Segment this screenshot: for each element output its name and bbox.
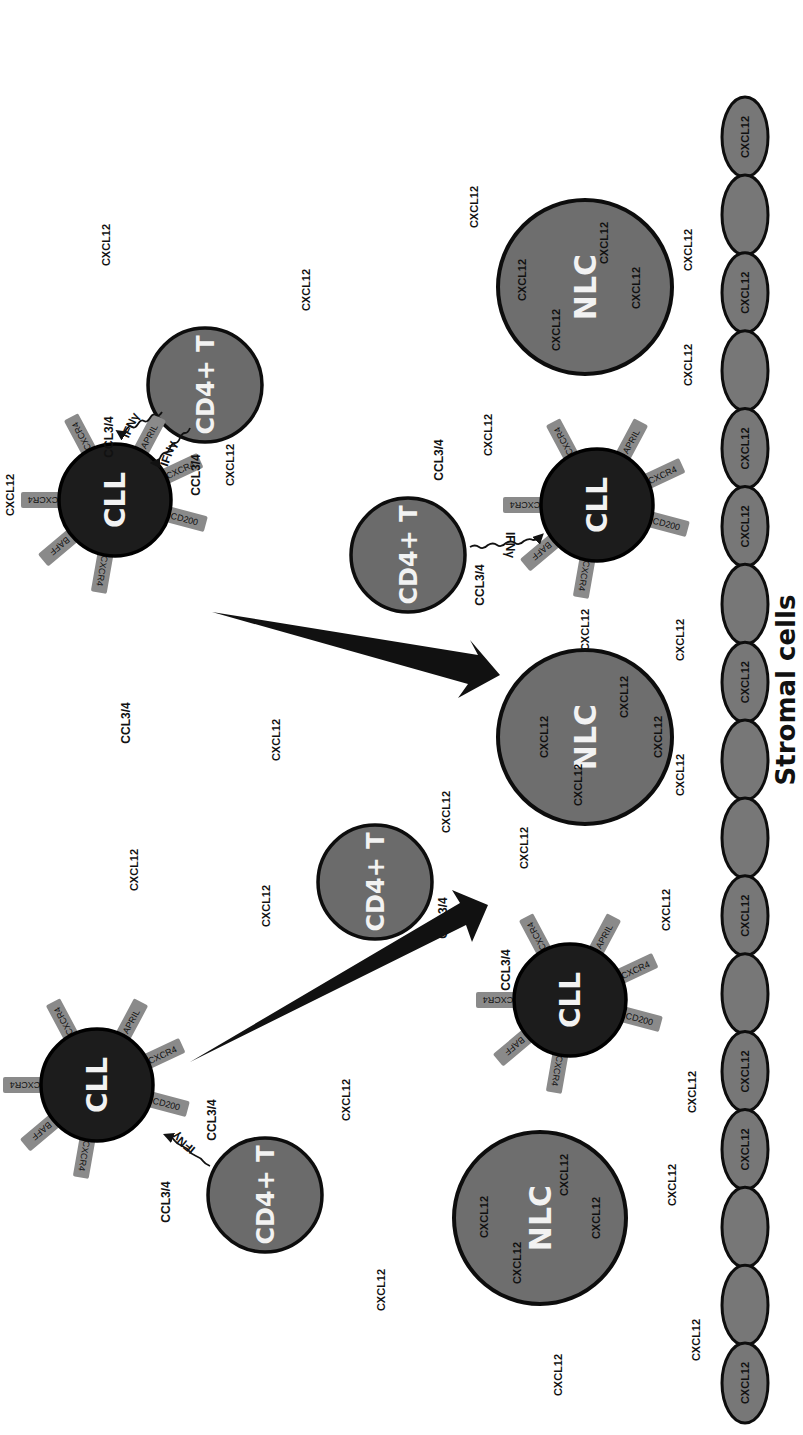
cd4-t-label: CD4+ T: [362, 832, 390, 932]
cxcl12-label: CXCL12: [739, 1362, 751, 1404]
cll-label: CLL: [81, 1057, 114, 1113]
ifng-label: IFNγ: [169, 1129, 198, 1157]
cxcl12-label: CXCL12: [270, 719, 282, 761]
cd4-t-label: CD4+ T: [252, 1145, 280, 1245]
cxcl12-label: CXCL12: [739, 895, 751, 937]
stromal-cell: [722, 954, 768, 1034]
cll-cell-middle: CXCR4APRILCXCR4CD200CXCR4BAFFCXCR4CLL: [476, 913, 663, 1094]
stromal-cell-layer: CXCL12CXCL12CXCL12CXCL12CXCL12CXCL12CXCL…: [722, 97, 768, 1423]
cd4-t-cell-bottom: CD4+ T: [208, 1138, 322, 1252]
receptor-label: CXCR4: [483, 995, 514, 1005]
cxcl12-label: CXCL12: [572, 764, 584, 806]
cxcl12-label: CXCL12: [739, 272, 751, 314]
ccl34-label: CCL3/4: [473, 564, 487, 606]
stromal-cell: [722, 331, 768, 411]
stromal-cell: [722, 175, 768, 255]
cxcl12-label: CXCL12: [538, 716, 550, 758]
cxcl12-label: CXCL12: [686, 1071, 698, 1113]
cxcl12-label: CXCL12: [558, 1154, 570, 1196]
stromal-cells-title: Stromal cells: [771, 595, 801, 786]
ccl34-label: CCL3/4: [205, 1099, 219, 1141]
ifng-label: IFNγ: [119, 410, 143, 440]
cxcl12-label: CXCL12: [674, 619, 686, 661]
nlc-cell-bottom: NLC CXCL12 CXCL12 CXCL12 CXCL12: [454, 1132, 626, 1304]
cxcl12-label: CXCL12: [739, 661, 751, 703]
cxcl12-label: CXCL12: [518, 827, 530, 869]
cxcl12-label: CXCL12: [630, 267, 642, 309]
cxcl12-label: CXCL12: [4, 474, 16, 516]
ccl34-label: CCL3/4: [499, 949, 513, 991]
cd4-t-cell-mid: CD4+ T: [318, 825, 432, 939]
cxcl12-label: CXCL12: [552, 1354, 564, 1396]
cxcl12-label: CXCL12: [739, 1050, 751, 1092]
cxcl12-label: CXCL12: [682, 344, 694, 386]
cxcl12-label: CXCL12: [260, 885, 272, 927]
stromal-cell: [722, 1187, 768, 1267]
stromal-cell: [722, 798, 768, 878]
cxcl12-label: CXCL12: [468, 186, 480, 228]
ccl34-label: CCL3/4: [436, 897, 450, 939]
cxcl12-label: CXCL12: [478, 1196, 490, 1238]
cxcl12-label: CXCL12: [550, 309, 562, 351]
cll-cell-right: CXCR4APRILCXCR4CD200CXCR4BAFFCXCR4CLL: [503, 418, 690, 599]
cd4-t-label: CD4+ T: [192, 335, 220, 435]
cxcl12-label: CXCL12: [682, 229, 694, 271]
cxcl12-label: CXCL12: [598, 222, 610, 264]
cxcl12-label: CXCL12: [300, 269, 312, 311]
cxcl12-label: CXCL12: [618, 676, 630, 718]
cxcl12-label: CXCL12: [739, 116, 751, 158]
cxcl12-label: CXCL12: [516, 259, 528, 301]
receptor-label: CXCR4: [28, 495, 59, 505]
cxcl12-label: CXCL12: [224, 444, 236, 486]
cd4-t-cell-mid-right: CD4+ T: [351, 498, 465, 612]
cxcl12-label: CXCL12: [739, 505, 751, 547]
ccl34-label: CCL3/4: [102, 416, 116, 458]
cxcl12-label: CXCL12: [739, 1128, 751, 1170]
nlc-cell-top: NLC CXCL12 CXCL12 CXCL12 CXCL12: [498, 200, 672, 374]
nlc-label: NLC: [523, 1185, 558, 1251]
stromal-cell: [722, 1265, 768, 1345]
stromal-cells-label: Stromal cells: [771, 595, 801, 786]
cxcl12-label: CXCL12: [660, 889, 672, 931]
stromal-cell: [722, 564, 768, 644]
cxcl12-label: CXCL12: [652, 716, 664, 758]
cxcl12-label: CXCL12: [579, 609, 591, 651]
cd4-t-cell-top: CD4+ T: [148, 328, 262, 442]
stromal-cell: [722, 720, 768, 800]
cxcl12-label: CXCL12: [128, 849, 140, 891]
cxcl12-label: CXCL12: [739, 427, 751, 469]
receptor-label: CXCR4: [510, 500, 541, 510]
cxcl12-label: CXCL12: [482, 414, 494, 456]
cll-label: CLL: [581, 477, 614, 533]
migration-arrow-top: [212, 612, 500, 698]
cxcl12-label: CXCL12: [511, 1242, 523, 1284]
cxcl12-label: CXCL12: [340, 1079, 352, 1121]
ccl34-label: CCL3/4: [432, 439, 446, 481]
cll-label: CLL: [554, 972, 587, 1028]
nlc-cell-middle: NLC CXCL12 CXCL12 CXCL12 CXCL12: [498, 650, 672, 824]
cxcl12-label: CXCL12: [590, 1197, 602, 1239]
ifng-label: IFNγ: [503, 532, 517, 558]
ccl34-label: CCL3/4: [119, 702, 133, 744]
ccl34-label: CCL3/4: [189, 454, 203, 496]
cxcl12-label: CXCL12: [690, 1319, 702, 1361]
cxcl12-label: CXCL12: [674, 754, 686, 796]
cll-microenvironment-diagram: CXCL12CXCL12CXCL12CXCL12CXCL12CXCL12CXCL…: [0, 0, 803, 1435]
receptor-label: CXCR4: [10, 1080, 41, 1090]
cxcl12-label: CXCL12: [100, 224, 112, 266]
cd4-t-label: CD4+ T: [395, 505, 423, 605]
nlc-label: NLC: [568, 704, 603, 770]
cxcl12-label: CXCL12: [666, 1164, 678, 1206]
ccl34-label: CCL3/4: [159, 1181, 173, 1223]
cll-label: CLL: [99, 472, 132, 528]
cxcl12-label: CXCL12: [375, 1269, 387, 1311]
cll-cell-bottom: CXCR4APRILCXCR4CD200CXCR4BAFFCXCR4CLL: [3, 998, 190, 1179]
cxcl12-label: CXCL12: [440, 791, 452, 833]
